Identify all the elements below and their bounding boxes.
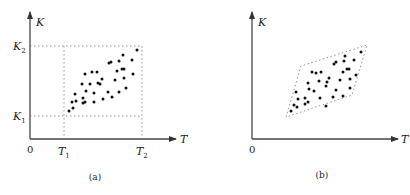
data-point — [293, 104, 296, 107]
data-point — [349, 87, 352, 90]
data-point — [342, 71, 345, 74]
panel-a: K T 0 K2 K1 T1 T2 (a) — [12, 12, 189, 182]
data-point — [68, 110, 71, 113]
data-point — [118, 60, 121, 63]
data-point — [132, 73, 135, 76]
tick-label-k1: K1 — [12, 110, 26, 125]
data-point — [89, 83, 92, 86]
data-point — [315, 72, 318, 75]
data-point — [313, 90, 316, 93]
data-point — [136, 49, 139, 52]
data-point — [107, 91, 110, 94]
data-point — [360, 51, 363, 54]
x-axis-label: T — [180, 133, 189, 146]
data-point — [296, 106, 299, 109]
figure: K T 0 K2 K1 T1 T2 (a) K T 0 (b) — [0, 0, 410, 195]
data-point — [81, 83, 84, 86]
data-point — [122, 54, 125, 57]
data-point — [355, 74, 358, 77]
data-point — [93, 101, 96, 104]
data-point — [111, 96, 114, 99]
data-point — [328, 77, 331, 80]
data-point — [75, 100, 78, 103]
data-point — [311, 71, 314, 74]
data-point — [125, 87, 128, 90]
data-point — [318, 80, 321, 83]
x-axis-label: T — [401, 133, 410, 146]
data-point — [307, 82, 310, 85]
tick-label-t2: T2 — [136, 145, 148, 160]
data-point — [339, 79, 342, 82]
data-point — [342, 95, 345, 98]
data-point — [110, 61, 113, 64]
tick-label-t1: T1 — [58, 145, 70, 160]
data-point — [325, 105, 328, 108]
data-point — [295, 91, 298, 94]
data-point — [118, 91, 121, 94]
data-point — [96, 71, 99, 74]
data-point — [343, 60, 346, 63]
caption-b: (b) — [316, 170, 329, 180]
data-point — [101, 78, 104, 81]
y-axis-label: K — [35, 16, 45, 29]
data-point — [82, 97, 85, 100]
scatter-points — [68, 49, 139, 113]
y-axis-label: K — [257, 16, 267, 29]
data-point — [332, 96, 335, 99]
tick-label-k2: K2 — [12, 40, 26, 55]
data-point — [71, 101, 74, 104]
data-point — [335, 61, 338, 64]
data-point — [319, 97, 322, 100]
data-point — [307, 101, 310, 104]
data-point — [84, 101, 87, 104]
data-point — [114, 79, 117, 82]
data-point — [308, 88, 311, 91]
caption-a: (a) — [89, 172, 101, 182]
data-point — [72, 107, 75, 110]
data-point — [102, 98, 105, 101]
origin-label: 0 — [249, 144, 255, 155]
data-point — [85, 90, 88, 93]
origin-label: 0 — [27, 144, 33, 155]
data-point — [131, 59, 134, 62]
data-point — [91, 71, 94, 74]
data-point — [304, 97, 307, 100]
data-point — [325, 85, 328, 88]
data-point — [348, 68, 351, 71]
scatter-points — [290, 51, 363, 113]
data-point — [304, 103, 307, 106]
data-point — [297, 98, 300, 101]
data-point — [123, 68, 126, 71]
data-point — [353, 59, 356, 62]
data-point — [74, 93, 77, 96]
data-point — [335, 89, 338, 92]
data-point — [93, 92, 96, 95]
data-point — [320, 71, 323, 74]
data-point — [344, 55, 347, 58]
data-point — [84, 73, 87, 76]
data-point — [123, 77, 126, 80]
data-point — [290, 110, 293, 113]
panel-b: K T 0 (b) — [249, 12, 410, 180]
data-point — [99, 83, 102, 86]
data-point — [116, 70, 119, 73]
data-point — [326, 81, 329, 84]
data-point — [349, 78, 352, 81]
